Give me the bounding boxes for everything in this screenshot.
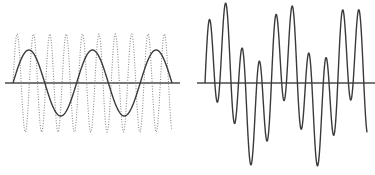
left-panel [5, 34, 180, 132]
right-panel [197, 3, 375, 166]
sum-wave [205, 3, 367, 166]
superposition-diagram [0, 0, 375, 175]
